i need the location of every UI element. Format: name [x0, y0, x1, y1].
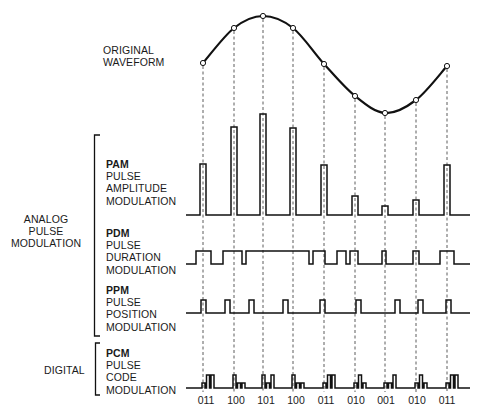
- row-abbr: PAM: [106, 158, 176, 170]
- analog-bracket: [95, 135, 101, 336]
- pcm-label: PCM PULSE CODE MODULATION: [106, 347, 176, 396]
- pcm-code: 011: [318, 394, 335, 406]
- pcm-code: 010: [408, 394, 426, 406]
- digital-bracket: [96, 343, 101, 395]
- pcm-code: 011: [198, 394, 215, 406]
- row-abbr: PDM: [106, 227, 176, 239]
- label-line: PULSE: [106, 359, 176, 371]
- pdm-signal: [186, 251, 470, 264]
- label-line: MODULATION: [106, 264, 176, 276]
- label-line: ORIGINAL: [103, 44, 164, 56]
- pcm-signal: [186, 375, 470, 388]
- pcm-code: 011: [439, 394, 456, 406]
- label-line: POSITION: [106, 308, 176, 320]
- sample-guide-lines: [203, 19, 447, 392]
- analog-pulse-modulation-label: ANALOG PULSE MODULATION: [5, 213, 87, 250]
- pdm-label: PDM PULSE DURATION MODULATION: [106, 227, 176, 276]
- label-line: MODULATION: [5, 237, 87, 249]
- pam-label: PAM PULSE AMPLITUDE MODULATION: [106, 158, 176, 207]
- label-line: WAVEFORM: [103, 56, 164, 68]
- modulation-diagram: [0, 0, 485, 414]
- ppm-label: PPM PULSE POSITION MODULATION: [106, 284, 176, 333]
- label-line: MODULATION: [106, 384, 176, 396]
- label-line: MODULATION: [106, 195, 176, 207]
- sample-points: [200, 13, 449, 115]
- row-abbr: PCM: [106, 347, 176, 359]
- label-line: DURATION: [106, 251, 176, 263]
- label-line: PULSE: [106, 239, 176, 251]
- pcm-code: 001: [377, 394, 395, 406]
- label-line: MODULATION: [106, 321, 176, 333]
- label-line: PULSE: [106, 170, 176, 182]
- pcm-code: 010: [347, 394, 365, 406]
- label-line: PULSE: [106, 296, 176, 308]
- original-waveform-label: ORIGINAL WAVEFORM: [103, 44, 164, 68]
- label-line: PULSE: [5, 225, 87, 237]
- label-line: AMPLITUDE: [106, 182, 176, 194]
- label-line: DIGITAL: [44, 364, 85, 376]
- digital-label: DIGITAL: [44, 364, 85, 376]
- pcm-code: 100: [287, 394, 305, 406]
- label-line: CODE: [106, 371, 176, 383]
- pcm-code: 101: [257, 394, 275, 406]
- ppm-signal: [186, 300, 470, 313]
- row-abbr: PPM: [106, 284, 176, 296]
- pam-signal: [186, 114, 470, 215]
- label-line: ANALOG: [5, 213, 87, 225]
- pcm-code: 100: [227, 394, 245, 406]
